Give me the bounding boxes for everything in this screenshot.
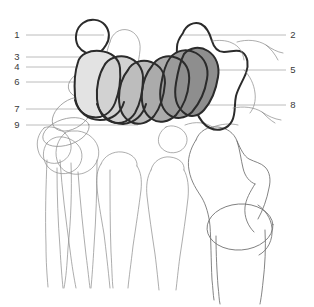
label-2: 2 <box>290 29 295 40</box>
label-7: 7 <box>14 103 19 114</box>
anatomical-figure: 1 3 4 6 7 9 2 5 8 <box>0 0 314 307</box>
label-5: 5 <box>290 64 295 75</box>
label-6: 6 <box>14 76 19 87</box>
figure-canvas: 1 3 4 6 7 9 2 5 8 <box>0 0 314 307</box>
label-1: 1 <box>14 29 19 40</box>
label-4: 4 <box>14 61 19 72</box>
label-8: 8 <box>290 99 295 110</box>
label-9: 9 <box>14 119 19 130</box>
